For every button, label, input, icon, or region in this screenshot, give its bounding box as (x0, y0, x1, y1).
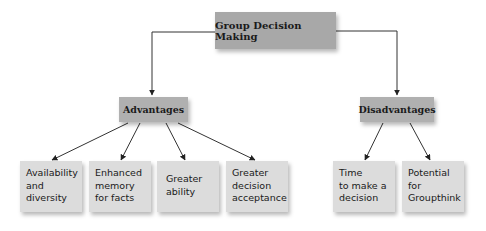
branch-node-label: Disadvantages (358, 104, 435, 115)
leaf-node-time-to-decide: Time to make a decision (333, 161, 395, 212)
leaf-node-label: Availability and diversity (26, 167, 78, 203)
leaf-node-greater-ability: Greater ability (157, 161, 219, 212)
diagram-canvas: Group Decision Making Advantages Disadva… (0, 0, 486, 231)
leaf-node-enhanced-memory: Enhanced memory for facts (89, 161, 151, 212)
connector-advantages-memory (121, 123, 140, 160)
connector-disadvantages-groupthink (410, 123, 430, 160)
leaf-node-label: Greater decision acceptance (232, 167, 287, 203)
leaf-node-decision-acceptance: Greater decision acceptance (226, 161, 288, 212)
leaf-node-availability-diversity: Availability and diversity (20, 161, 82, 212)
connector-disadvantages-time (365, 123, 383, 160)
root-node-group-decision-making: Group Decision Making (215, 12, 336, 49)
leaf-node-label: Greater ability (166, 173, 202, 197)
leaf-node-groupthink: Potential for Groupthink (402, 161, 464, 212)
branch-node-advantages: Advantages (119, 97, 188, 122)
connector-root-advantages (152, 32, 215, 95)
root-node-label: Group Decision Making (215, 20, 336, 42)
branch-node-disadvantages: Disadvantages (360, 97, 434, 122)
leaf-node-label: Time to make a decision (339, 167, 386, 203)
connector-root-disadvantages (336, 31, 397, 95)
branch-node-label: Advantages (123, 104, 184, 115)
connector-advantages-availability (52, 123, 128, 160)
connector-advantages-ability (166, 123, 185, 160)
leaf-node-label: Potential for Groupthink (408, 167, 461, 203)
leaf-node-label: Enhanced memory for facts (95, 167, 142, 203)
connector-advantages-acceptance (178, 123, 255, 160)
